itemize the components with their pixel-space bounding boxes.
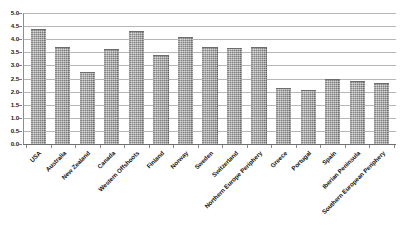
x-axis-category-label: Finland: [146, 150, 166, 170]
y-axis-tick-label: 1.5: [11, 102, 19, 108]
y-axis-tick-label: 2.0: [11, 89, 19, 95]
bar-chart-figure: 5.04.54.03.53.02.52.01.51.00.50.0 USAAus…: [0, 0, 404, 231]
y-axis-tick-label: 4.0: [11, 36, 19, 42]
y-axis-tick-label: 4.5: [11, 23, 19, 29]
bar-slot: [51, 13, 76, 144]
bar[interactable]: [31, 29, 46, 144]
x-axis-category-label: Norway: [170, 150, 190, 170]
y-axis-tick-mark: [19, 118, 22, 119]
bar-slot: [247, 13, 272, 144]
bar-slot: [320, 13, 345, 144]
y-axis-tick-mark: [19, 26, 22, 27]
bar-slot: [198, 13, 223, 144]
y-axis-tick-label: 0.5: [11, 128, 19, 134]
bar[interactable]: [325, 79, 340, 144]
x-axis-category-label: Canada: [96, 150, 116, 170]
y-axis-tick-mark: [19, 79, 22, 80]
bar[interactable]: [55, 47, 70, 144]
y-axis-tick-mark: [19, 52, 22, 53]
x-axis-category-label: Spain: [321, 150, 337, 166]
y-axis-tick-mark: [19, 131, 22, 132]
y-axis-tick-label: 3.0: [11, 62, 19, 68]
bar[interactable]: [153, 55, 168, 144]
bar-slot: [149, 13, 174, 144]
y-axis-tick-mark: [19, 65, 22, 66]
bar[interactable]: [251, 47, 266, 144]
bar[interactable]: [178, 37, 193, 144]
x-axis-category-label: USA: [29, 150, 43, 164]
x-axis-category-labels: USAAustraliaNew ZealandCanadaWestern Off…: [24, 148, 396, 228]
x-axis-label-slot: Finland: [149, 148, 174, 228]
x-axis-label-slot: Portugal: [296, 148, 321, 228]
y-axis-tick-mark: [19, 39, 22, 40]
bar[interactable]: [129, 31, 144, 144]
bar[interactable]: [350, 81, 365, 144]
y-axis-tick-label: 3.5: [11, 49, 19, 55]
bar[interactable]: [104, 49, 119, 144]
bar-slot: [296, 13, 321, 144]
plot-area: [24, 13, 396, 144]
bar-slot: [26, 13, 51, 144]
bar[interactable]: [80, 72, 95, 144]
y-axis-tick-label: 1.0: [11, 115, 19, 121]
y-axis-tick-label: 0.0: [11, 141, 19, 147]
bar-slot: [369, 13, 394, 144]
y-axis: 5.04.54.03.53.02.52.01.51.00.50.0: [0, 0, 22, 160]
y-axis-tick-mark: [19, 105, 22, 106]
bar[interactable]: [227, 48, 242, 144]
x-axis-label-slot: Western Offshoots: [124, 148, 149, 228]
bar-slot: [222, 13, 247, 144]
y-axis-tick-label: 2.5: [11, 76, 19, 82]
x-axis-label-slot: Greece: [271, 148, 296, 228]
y-axis-tick-label: 5.0: [11, 10, 19, 16]
x-axis-label-slot: Norway: [173, 148, 198, 228]
bar[interactable]: [374, 83, 389, 144]
x-axis-label-slot: Australia: [51, 148, 76, 228]
y-axis-tick-mark: [19, 13, 22, 14]
y-axis-tick-mark: [19, 92, 22, 93]
x-axis-label-slot: New Zealand: [75, 148, 100, 228]
bar-slot: [100, 13, 125, 144]
bar-slot: [271, 13, 296, 144]
bar-slot: [345, 13, 370, 144]
x-axis-label-slot: Northern Europe Periphery: [247, 148, 272, 228]
x-axis-label-slot: USA: [26, 148, 51, 228]
bar[interactable]: [301, 90, 316, 144]
x-axis-label-slot: Southern European Periphery: [369, 148, 394, 228]
bar[interactable]: [276, 88, 291, 144]
bar-slot: [75, 13, 100, 144]
x-axis-category-label: Greece: [269, 150, 288, 169]
bar-slot: [124, 13, 149, 144]
bar-slot: [173, 13, 198, 144]
bar[interactable]: [202, 47, 217, 144]
bars-series: [24, 13, 396, 144]
x-axis-category-label: Sweden: [194, 150, 215, 171]
y-axis-tick-mark: [19, 144, 22, 145]
